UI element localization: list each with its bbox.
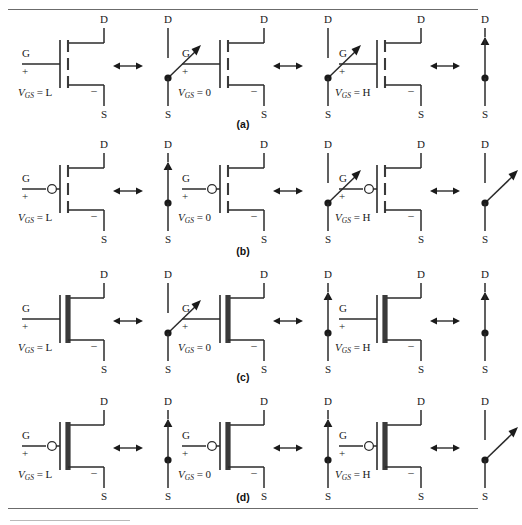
top-rule <box>8 9 478 10</box>
drain-label: D <box>260 138 268 150</box>
drain-label: D <box>100 395 108 407</box>
mosfet-row-c: D G + VGS = L – S D S <box>0 269 486 381</box>
mosfet-row-a: D G + VGS = L – S D S <box>0 14 486 126</box>
polarity-minus-label: – <box>250 84 257 96</box>
drain-label: D <box>417 138 425 150</box>
switch-drain-label: D <box>481 13 489 25</box>
vgs-label: VGS = 0 <box>178 341 212 355</box>
drain-label: D <box>417 13 425 25</box>
gate-label: G <box>22 302 30 314</box>
drain-label: D <box>100 138 108 150</box>
switch-drain-label: D <box>481 395 489 407</box>
mosfet-cell-c-2: D G + VGS = 0 – S D S <box>168 269 330 381</box>
polarity-plus-label: + <box>22 320 28 332</box>
gate-label: G <box>339 47 347 59</box>
gate-label: G <box>182 172 190 184</box>
row-label-d: (d) <box>0 491 486 503</box>
row-label-a: (a) <box>0 118 486 130</box>
vgs-label: VGS = H <box>335 468 371 482</box>
vgs-label: VGS = H <box>335 211 371 225</box>
mosfet-cell-a-2: D G + VGS = 0 – S D S <box>168 14 330 126</box>
source-label: S <box>101 233 107 245</box>
switch-side: D S <box>451 139 522 251</box>
drain-label: D <box>260 268 268 280</box>
polarity-minus-label: – <box>90 466 97 478</box>
mosfet-cell-b-2: D G + VGS = 0 – S D S <box>168 139 330 251</box>
mosfet-cell-c-1: D G + VGS = L – S D S <box>8 269 170 381</box>
vgs-label: VGS = 0 <box>178 86 212 100</box>
polarity-plus-label: + <box>22 65 28 77</box>
gate-label: G <box>339 429 347 441</box>
polarity-plus-label: + <box>339 320 345 332</box>
polarity-minus-label: – <box>250 339 257 351</box>
gate-label: G <box>339 302 347 314</box>
drain-label: D <box>417 268 425 280</box>
mosfet-cell-b-3: D G + VGS = H – S D S <box>325 139 487 251</box>
vgs-label: VGS = 0 <box>178 211 212 225</box>
vgs-label: VGS = H <box>335 86 371 100</box>
switch-drain-label: D <box>481 138 489 150</box>
vgs-label: VGS = L <box>18 468 53 482</box>
drain-label: D <box>100 13 108 25</box>
polarity-plus-label: + <box>22 190 28 202</box>
polarity-minus-label: – <box>407 339 414 351</box>
polarity-minus-label: – <box>90 339 97 351</box>
polarity-plus-label: + <box>182 65 188 77</box>
polarity-minus-label: – <box>90 84 97 96</box>
gate-label: G <box>22 47 30 59</box>
gate-label: G <box>182 47 190 59</box>
gate-label: G <box>22 172 30 184</box>
switch-source-label: S <box>482 233 488 245</box>
switch-side: D S <box>451 269 522 381</box>
row-label-c: (c) <box>0 371 486 383</box>
polarity-minus-label: – <box>90 209 97 221</box>
switch-model-a-3-closed: D S <box>451 14 522 126</box>
gate-label: G <box>22 429 30 441</box>
polarity-minus-label: – <box>250 209 257 221</box>
polarity-plus-label: + <box>182 320 188 332</box>
polarity-plus-label: + <box>22 447 28 459</box>
drain-label: D <box>260 13 268 25</box>
switch-model-c-3-closed: D S <box>451 269 522 381</box>
vgs-label: VGS = H <box>335 341 371 355</box>
drain-label: D <box>417 395 425 407</box>
vgs-label: VGS = L <box>18 211 53 225</box>
vgs-label: VGS = L <box>18 86 53 100</box>
switch-model-b-3-open: D S <box>451 139 522 251</box>
vgs-label: VGS = L <box>18 341 53 355</box>
vgs-label: VGS = 0 <box>178 468 212 482</box>
source-label: S <box>418 233 424 245</box>
mosfet-cell-a-1: D G + VGS = L – S D S <box>8 14 170 126</box>
polarity-minus-label: – <box>407 209 414 221</box>
source-label: S <box>261 233 267 245</box>
caption-tail-rule <box>10 520 130 521</box>
polarity-plus-label: + <box>339 447 345 459</box>
gate-label: G <box>182 302 190 314</box>
polarity-plus-label: + <box>182 447 188 459</box>
gate-label: G <box>182 429 190 441</box>
switch-drain-label: D <box>481 268 489 280</box>
polarity-minus-label: – <box>250 466 257 478</box>
drain-label: D <box>100 268 108 280</box>
polarity-minus-label: – <box>407 466 414 478</box>
mosfet-row-b: D G + VGS = L – S D S <box>0 139 486 251</box>
polarity-plus-label: + <box>339 65 345 77</box>
switch-side: D S <box>451 14 522 126</box>
polarity-plus-label: + <box>182 190 188 202</box>
polarity-minus-label: – <box>407 84 414 96</box>
gate-label: G <box>339 172 347 184</box>
drain-label: D <box>260 395 268 407</box>
mosfet-cell-b-1: D G + VGS = L – S D S <box>8 139 170 251</box>
bottom-rule <box>8 508 478 509</box>
row-label-b: (b) <box>0 245 486 257</box>
polarity-plus-label: + <box>339 190 345 202</box>
mosfet-cell-c-3: D G + VGS = H – S D S <box>325 269 487 381</box>
mosfet-cell-a-3: D G + VGS = H – S D S <box>325 14 487 126</box>
